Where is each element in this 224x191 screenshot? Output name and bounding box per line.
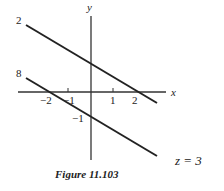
contour-diagram: y x 2 8 −2 −1 1 2 −1 z = 3 Figure 11.103	[0, 0, 224, 191]
contour-value-label: z = 3	[174, 153, 202, 168]
x-tick-label-1: 1	[110, 94, 116, 106]
figure-caption: Figure 11.103	[54, 168, 119, 180]
y-axis-label: y	[86, 1, 92, 13]
x-tick-label-neg2: −2	[40, 94, 52, 106]
x-tick-label-neg1: −1	[63, 94, 75, 106]
x-tick-label-2: 2	[132, 94, 138, 106]
contour-label-2: 2	[16, 14, 22, 26]
x-axis-label: x	[170, 86, 176, 98]
contour-label-8: 8	[16, 67, 22, 79]
y-tick-label-neg1: −1	[72, 112, 84, 124]
